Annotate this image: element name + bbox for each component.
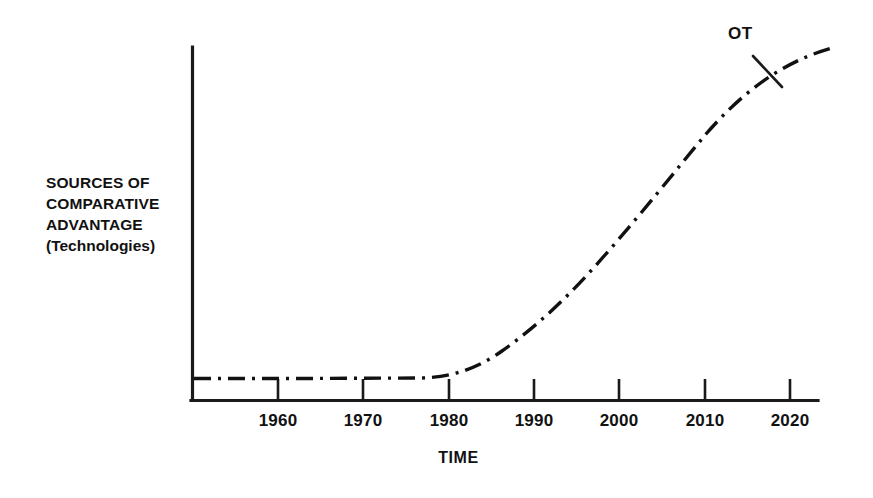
y-axis-label-line-1: SOURCES OF [46, 172, 186, 193]
x-tick-label-1980: 1980 [409, 411, 489, 431]
x-tick-label-1990: 1990 [494, 411, 574, 431]
y-axis-label-line-2: COMPARATIVE [46, 193, 186, 214]
y-axis-label: SOURCES OF COMPARATIVE ADVANTAGE (Techno… [46, 172, 186, 256]
x-axis-ticks [278, 379, 790, 400]
ot-leader-line [753, 56, 782, 87]
series-curve-ot [194, 47, 835, 379]
x-axis-label-text: TIME [438, 449, 479, 466]
x-tick-label-2010: 2010 [665, 411, 745, 431]
chart-figure: SOURCES OF COMPARATIVE ADVANTAGE (Techno… [0, 0, 873, 498]
y-axis-label-line-4: (Technologies) [46, 235, 186, 256]
annotation-label-ot: OT [728, 24, 753, 44]
y-axis-label-line-3: ADVANTAGE [46, 214, 186, 235]
x-tick-label-1960: 1960 [238, 411, 318, 431]
x-tick-label-2000: 2000 [579, 411, 659, 431]
x-tick-label-2020: 2020 [750, 411, 830, 431]
x-axis-label: TIME [0, 449, 873, 467]
x-tick-label-1970: 1970 [323, 411, 403, 431]
